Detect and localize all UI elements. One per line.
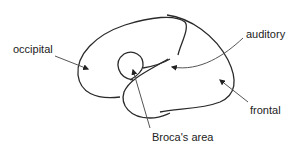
broca-arrow — [133, 70, 150, 128]
label-occipital: occipital — [13, 44, 53, 55]
label-frontal: frontal — [250, 105, 281, 116]
label-auditory: auditory — [246, 29, 285, 40]
brain-outline-right — [160, 15, 234, 112]
brain-outline-upper — [78, 17, 187, 97]
brain-diagram — [0, 0, 299, 149]
occipital-arrow — [55, 56, 88, 69]
label-broca: Broca's area — [152, 132, 213, 143]
